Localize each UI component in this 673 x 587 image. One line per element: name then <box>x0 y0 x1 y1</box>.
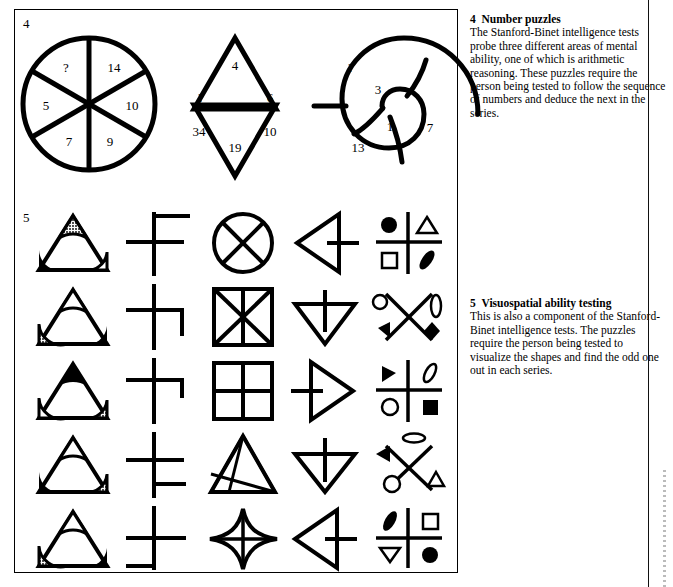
vs-cell-r4c4 <box>287 432 367 504</box>
vs-cell-r4c3 <box>205 432 285 504</box>
wheel-value-3: 10 <box>126 98 139 113</box>
shape-open-ellipse <box>403 434 425 443</box>
star-value-top: 4 <box>232 58 239 73</box>
shape-filled-triangle <box>376 446 390 462</box>
puzzle-spiral: ? 3 1 7 13 <box>310 24 460 184</box>
shape-filled-diamond <box>424 322 440 340</box>
vs-cell-r5c4 <box>287 506 367 578</box>
wheel-value-4: 9 <box>107 134 114 149</box>
vs-cell-r1c1 <box>33 210 113 282</box>
shape-open-circle <box>382 399 398 415</box>
vs-cell-r1c2 <box>120 210 200 282</box>
star-value-bottom: 19 <box>229 140 242 155</box>
vs-cell-r5c5 <box>370 506 450 578</box>
spiral-divider-c <box>407 60 426 96</box>
vs-cell-r1c4 <box>287 210 367 282</box>
star-triangle-up <box>194 38 276 109</box>
vs-cell-r4c2 <box>120 432 200 504</box>
figure-panel: 4 5 ? 14 10 9 7 5 4 6 <box>14 9 458 573</box>
page-edge-artifacts <box>663 470 666 587</box>
vs-cell-r5c1 <box>33 506 113 578</box>
vs-cell-r5c2 <box>120 506 200 578</box>
puzzle-star: 4 6 10 19 34 ? <box>165 24 305 184</box>
vs-cell-r5c3 <box>205 506 285 578</box>
shape-open-ellipse <box>431 295 441 317</box>
caption-4-body: The Stanford-Binet intelligence tests pr… <box>470 26 665 118</box>
vs-cell-r2c5 <box>370 284 450 356</box>
vs-cell-r2c4 <box>287 284 367 356</box>
shape-filled-triangle <box>378 322 390 338</box>
caption-5-heading: 5 Visuospatial ability testing <box>470 297 611 309</box>
visuospatial-row-5 <box>15 506 459 578</box>
vs-cell-r3c1 <box>33 358 113 430</box>
wheel-value-2: 14 <box>108 60 122 75</box>
wheel-value-6: 5 <box>43 98 50 113</box>
wheel-value-1: ? <box>63 60 69 75</box>
star-value-upper-left: ? <box>198 90 204 105</box>
shape-filled-leaf <box>380 509 400 533</box>
vs-cell-r2c2 <box>120 284 200 356</box>
visuospatial-row-2 <box>15 284 459 356</box>
vs-cell-r3c3 <box>205 358 285 430</box>
spiral-value-3: 1 <box>387 119 394 134</box>
vs-cell-r4c5 <box>370 432 450 504</box>
shape-open-circle <box>384 476 400 492</box>
caption-5-body: This is also a component of the Stanford… <box>470 310 660 376</box>
corner-right-open <box>83 252 107 270</box>
vs-cell-r3c2 <box>120 358 200 430</box>
shape-filled-circle <box>381 217 397 233</box>
wheel-value-5: 7 <box>66 134 73 149</box>
shape-open-leaf <box>421 362 438 384</box>
shape-filled-left-triangle <box>382 366 396 382</box>
caption-5-number: 5 <box>470 297 476 309</box>
caption-figure-4: 4 Number puzzles The Stanford-Binet inte… <box>470 13 666 120</box>
caption-4-title: Number puzzles <box>482 13 561 25</box>
star-value-lower-left: 34 <box>193 124 207 139</box>
shape-open-triangle-down <box>380 548 400 562</box>
vs-cell-r1c3 <box>205 210 285 282</box>
shape-open-triangle <box>417 217 437 233</box>
visuospatial-row-4 <box>15 432 459 504</box>
vs-cell-r3c4 <box>287 358 367 430</box>
spiral-value-5: 13 <box>352 140 365 155</box>
star-value-lower-right: 10 <box>264 124 277 139</box>
shape-filled-circle <box>422 547 438 563</box>
apex-hatched <box>59 216 87 238</box>
shape-open-circle <box>373 295 387 309</box>
vs-cell-r3c5 <box>370 358 450 430</box>
caption-4-number: 4 <box>470 13 476 25</box>
spiral-value-1: ? <box>348 60 354 75</box>
shape-open-triangle <box>428 472 444 486</box>
shape-open-square <box>423 514 438 529</box>
visuospatial-row-3 <box>15 358 459 430</box>
caption-figure-5: 5 Visuospatial ability testing This is a… <box>470 297 666 377</box>
shape-filled-leaf <box>417 248 438 272</box>
caption-5-title: Visuospatial ability testing <box>482 297 612 309</box>
vs-cell-r2c3 <box>205 284 285 356</box>
vs-cell-r1c5 <box>370 210 450 282</box>
page-edge-rule <box>648 0 649 587</box>
shape-filled-square <box>423 400 438 415</box>
puzzle-wheel: ? 14 10 9 7 5 <box>19 24 159 184</box>
spiral-value-2: 3 <box>375 82 382 97</box>
number-puzzles-group: ? 14 10 9 7 5 4 6 10 19 34 ? <box>15 10 459 200</box>
star-value-upper-right: 6 <box>267 90 274 105</box>
visuospatial-row-1 <box>15 210 459 282</box>
spiral-divider-a <box>354 108 383 134</box>
visuospatial-group <box>15 206 459 572</box>
caption-4-heading: 4 Number puzzles <box>470 13 561 25</box>
vs-cell-r4c1 <box>33 432 113 504</box>
shape-open-square <box>382 253 397 268</box>
spiral-value-4: 7 <box>427 120 434 135</box>
vs-cell-r2c1 <box>33 284 113 356</box>
